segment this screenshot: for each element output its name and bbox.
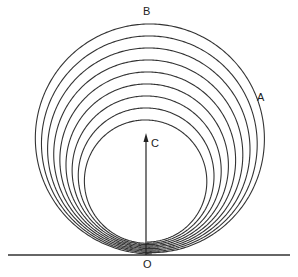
spiral-curve: [35, 24, 264, 254]
spiral-figure: [0, 0, 298, 277]
label-o: O: [143, 259, 152, 270]
spiral-path: [35, 24, 264, 254]
arrowhead-icon: [144, 133, 149, 142]
label-c: C: [151, 138, 159, 149]
label-a: A: [257, 92, 264, 103]
label-b: B: [143, 6, 150, 17]
